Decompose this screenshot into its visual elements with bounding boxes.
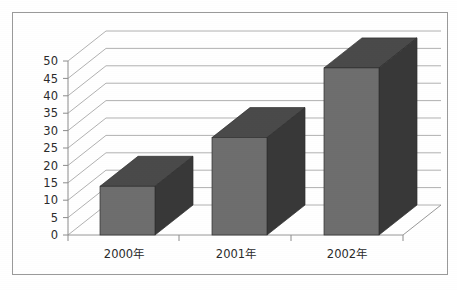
ytick-label: 0 bbox=[51, 228, 58, 242]
ytick-label: 35 bbox=[43, 106, 58, 120]
bar-group-2002[interactable] bbox=[324, 38, 417, 235]
ytick-label: 45 bbox=[43, 72, 58, 86]
ytick-label: 40 bbox=[43, 89, 58, 103]
ytick-label: 15 bbox=[43, 176, 58, 190]
ytick-label: 20 bbox=[43, 159, 58, 173]
ytick-label: 25 bbox=[43, 141, 58, 155]
xtick-label-2001: 2001年 bbox=[216, 247, 256, 261]
bar-group-2001[interactable] bbox=[212, 108, 305, 235]
ytick-label: 30 bbox=[43, 124, 58, 138]
bar-chart-3d: 50 45 40 35 30 25 20 15 10 5 0 2000年 200… bbox=[0, 0, 457, 290]
xtick-label-2002: 2002年 bbox=[327, 247, 367, 261]
bar-front-face bbox=[212, 138, 267, 235]
bar-front-face bbox=[324, 68, 379, 235]
ytick-label: 5 bbox=[51, 211, 58, 225]
bar-side-face bbox=[379, 38, 417, 235]
bar-front-face bbox=[100, 186, 155, 235]
ytick-label: 50 bbox=[43, 54, 58, 68]
chart-figure: 50 45 40 35 30 25 20 15 10 5 0 2000年 200… bbox=[0, 0, 457, 290]
x-axis-labels: 2000年 2001年 2002年 bbox=[104, 247, 367, 261]
ytick-label: 10 bbox=[43, 193, 58, 207]
xtick-label-2000: 2000年 bbox=[104, 247, 144, 261]
